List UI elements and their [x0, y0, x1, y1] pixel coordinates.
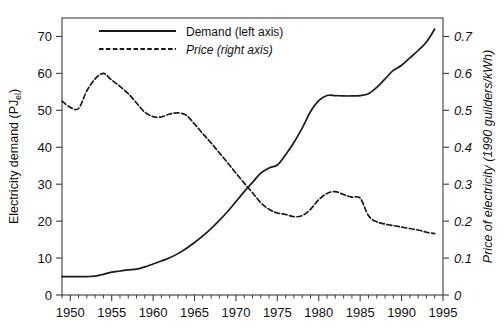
x-tick-label-1975: 1975 — [263, 305, 292, 320]
y-left-tick-label-0: 0 — [45, 288, 52, 303]
y-right-tick-label-0.1: 0.1 — [454, 251, 472, 266]
legend-label-price: Price (right axis) — [186, 43, 273, 57]
x-tick-label-1995: 1995 — [429, 305, 458, 320]
y-axis-left-title: Electricity demand (PJel) — [7, 89, 23, 224]
x-tick-label-1950: 1950 — [56, 305, 85, 320]
legend-label-demand: Demand (left axis) — [186, 25, 283, 39]
y-left-tick-label-20: 20 — [38, 214, 52, 229]
y-left-tick-label-10: 10 — [38, 251, 52, 266]
x-tick-label-1965: 1965 — [180, 305, 209, 320]
x-tick-label-1980: 1980 — [304, 305, 333, 320]
figure-container: 1950195519601965197019751980198519901995… — [0, 0, 504, 335]
electricity-demand-price-chart: 1950195519601965197019751980198519901995… — [0, 0, 504, 335]
y-axis-right-title: Price of electricity (1990 guilders/kWh) — [481, 50, 495, 263]
x-tick-label-1970: 1970 — [221, 305, 250, 320]
y-right-tick-label-0.5: 0.5 — [454, 103, 473, 118]
x-tick-label-1955: 1955 — [97, 305, 126, 320]
y-right-tick-label-0.6: 0.6 — [454, 66, 473, 81]
x-tick-label-1960: 1960 — [139, 305, 168, 320]
y-right-tick-label-0.4: 0.4 — [454, 140, 472, 155]
x-tick-label-1985: 1985 — [346, 305, 375, 320]
y-right-tick-label-0.2: 0.2 — [454, 214, 473, 229]
y-left-tick-label-40: 40 — [38, 140, 52, 155]
y-left-tick-label-50: 50 — [38, 103, 52, 118]
x-tick-label-1990: 1990 — [387, 305, 416, 320]
y-left-tick-label-70: 70 — [38, 29, 52, 44]
y-left-tick-label-60: 60 — [38, 66, 52, 81]
y-right-tick-label-0.3: 0.3 — [454, 177, 473, 192]
y-left-tick-label-30: 30 — [38, 177, 52, 192]
y-right-tick-label-0.7: 0.7 — [454, 29, 473, 44]
y-right-tick-label-0: 0 — [454, 288, 462, 303]
